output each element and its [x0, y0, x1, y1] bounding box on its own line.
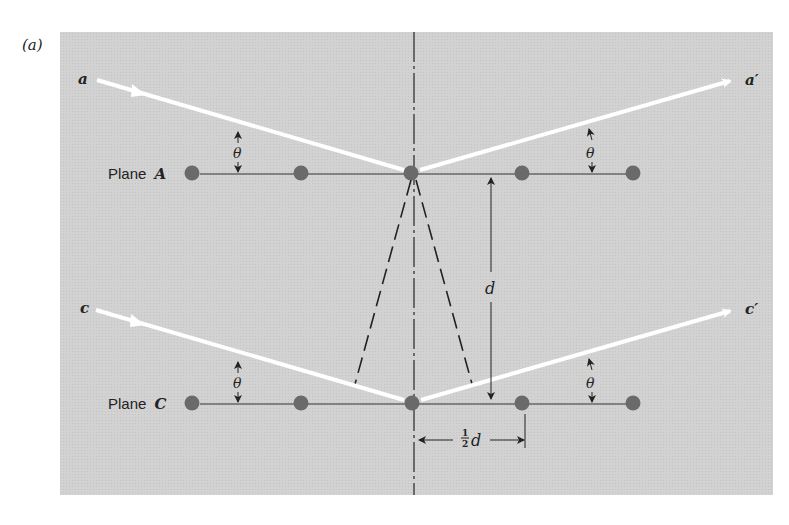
ray-label-a-prime: a′ [745, 71, 759, 89]
atom [405, 396, 420, 411]
atom [185, 166, 200, 181]
half-spacing-label: d [471, 431, 481, 450]
atom [626, 166, 641, 181]
svg-text:2: 2 [462, 439, 468, 449]
atom [185, 396, 200, 411]
plane-c-label: Plane C [108, 395, 166, 413]
atom [294, 396, 309, 411]
atom [515, 166, 530, 181]
ray-label-a: a [78, 70, 88, 88]
svg-text:θ: θ [233, 375, 242, 391]
svg-text:1: 1 [462, 428, 468, 438]
svg-text:θ: θ [586, 145, 595, 161]
svg-text:θ: θ [586, 375, 595, 391]
atom [294, 166, 309, 181]
spacing-d-label: d [485, 279, 495, 298]
bragg-diffraction-figure: (a) Plane A Plane C [0, 0, 789, 525]
ray-label-c: c [80, 299, 89, 317]
atom [626, 396, 641, 411]
panel-label: (a) [22, 36, 43, 54]
ray-label-c-prime: c′ [745, 300, 758, 318]
svg-text:θ: θ [233, 145, 242, 161]
atom [515, 396, 530, 411]
atom [404, 166, 419, 181]
plane-a-label: Plane A [108, 165, 166, 183]
